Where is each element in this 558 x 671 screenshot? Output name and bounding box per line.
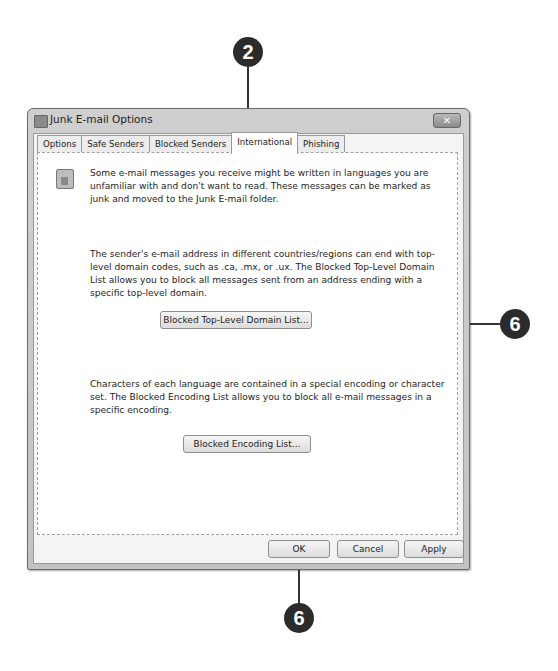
callout-6: 6 xyxy=(284,603,314,633)
window-title: Junk E-mail Options xyxy=(50,113,153,125)
international-tab-panel: Some e-mail messages you receive might b… xyxy=(37,152,458,535)
international-icon xyxy=(56,169,74,189)
ok-button[interactable]: OK xyxy=(268,540,330,558)
domain-description: The sender's e-mail address in different… xyxy=(90,248,445,300)
apply-button[interactable]: Apply xyxy=(404,540,464,558)
callout-3: 6 xyxy=(500,309,530,339)
tab-international[interactable]: International xyxy=(231,132,298,154)
encoding-description: Characters of each language are containe… xyxy=(90,378,445,417)
app-icon xyxy=(34,115,48,128)
junk-email-options-dialog: Junk E-mail Options ✕ Options Safe Sende… xyxy=(27,108,470,570)
tab-phishing[interactable]: Phishing xyxy=(297,135,345,153)
blocked-top-level-domain-list-button[interactable]: Blocked Top-Level Domain List... xyxy=(160,311,312,329)
intro-text: Some e-mail messages you receive might b… xyxy=(90,167,440,206)
cancel-button[interactable]: Cancel xyxy=(337,540,399,558)
callout-2: 2 xyxy=(233,37,263,67)
tab-safe-senders[interactable]: Safe Senders xyxy=(81,135,150,153)
tab-blocked-senders[interactable]: Blocked Senders xyxy=(149,135,232,153)
title-bar[interactable]: Junk E-mail Options ✕ xyxy=(28,109,469,131)
tab-options[interactable]: Options xyxy=(37,135,82,153)
tab-strip: Options Safe Senders Blocked Senders Int… xyxy=(37,135,344,153)
close-button[interactable]: ✕ xyxy=(433,113,461,128)
dialog-client: Options Safe Senders Blocked Senders Int… xyxy=(33,133,464,564)
blocked-encoding-list-button[interactable]: Blocked Encoding List... xyxy=(183,435,311,453)
